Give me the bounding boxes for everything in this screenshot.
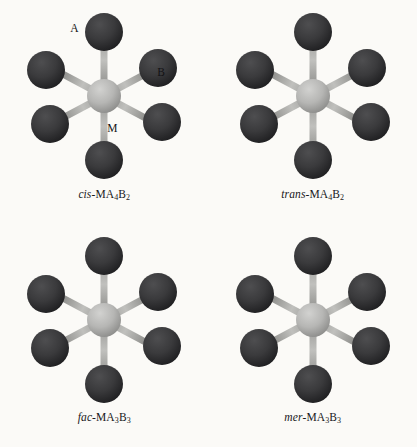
caption-core-fac: -MA — [92, 411, 115, 423]
caption-b-letter-fac: B — [119, 411, 127, 423]
structure-grid: A B M cis-MA4B2 — [0, 0, 417, 447]
caption-fac: fac-MA3B3 — [0, 411, 209, 425]
caption-b-count-cis: 2 — [126, 193, 130, 202]
caption-prefix-cis: cis — [78, 188, 91, 200]
caption-b-letter-trans: B — [332, 188, 340, 200]
caption-core-mer: -MA — [303, 411, 326, 423]
caption-trans: trans-MA4B2 — [209, 188, 417, 202]
caption-b-count-trans: 2 — [340, 193, 344, 202]
structure-cell-fac: fac-MA3B3 — [0, 224, 209, 447]
caption-cis: cis-MA4B2 — [0, 188, 209, 202]
metal-center-trans — [296, 79, 330, 113]
structure-cell-trans: trans-MA4B2 — [209, 0, 417, 224]
label-ligand-b: B — [157, 66, 165, 78]
structure-cell-cis: A B M cis-MA4B2 — [0, 0, 209, 224]
octahedral-model-trans — [223, 6, 403, 186]
label-metal: M — [107, 122, 117, 134]
structure-cell-mer: mer-MA3B3 — [209, 224, 417, 447]
caption-core-trans: -MA — [305, 188, 328, 200]
caption-b-count-fac: 3 — [127, 416, 131, 425]
caption-b-letter-mer: B — [329, 411, 337, 423]
caption-core-cis: -MA — [91, 188, 114, 200]
caption-prefix-mer: mer — [284, 411, 302, 423]
octahedral-model-mer — [223, 230, 403, 410]
label-ligand-a: A — [70, 22, 78, 34]
metal-center-cis — [87, 79, 121, 113]
caption-mer: mer-MA3B3 — [209, 411, 417, 425]
caption-prefix-trans: trans — [281, 188, 305, 200]
caption-prefix-fac: fac — [78, 411, 92, 423]
metal-center-fac — [87, 303, 121, 337]
octahedral-model-cis: A B M — [14, 6, 194, 186]
caption-b-letter-cis: B — [118, 188, 126, 200]
metal-center-mer — [296, 303, 330, 337]
octahedral-model-fac — [14, 230, 194, 410]
caption-b-count-mer: 3 — [337, 416, 341, 425]
